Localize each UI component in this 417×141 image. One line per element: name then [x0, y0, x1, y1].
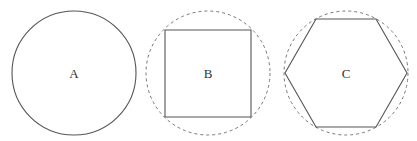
label-c: C — [342, 66, 351, 81]
figure-b: B — [146, 11, 270, 135]
figure-c: C — [284, 11, 408, 135]
figure-a: A — [12, 11, 136, 135]
shapes-diagram: A B C — [0, 0, 417, 141]
label-b: B — [204, 66, 213, 81]
label-a: A — [69, 66, 79, 81]
